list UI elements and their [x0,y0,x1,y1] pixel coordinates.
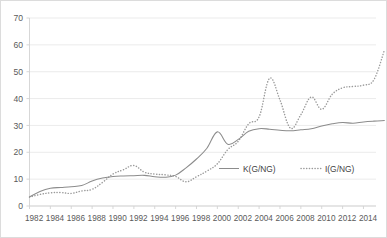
x-tick-label: 1996 [171,214,190,223]
x-tick-label: 2000 [213,214,232,223]
x-tick-label: 2002 [234,214,253,223]
x-tick-label: 2012 [338,214,357,223]
y-tick-label: 70 [13,13,23,23]
legend-label-i-g-ng[interactable]: I(G/NG) [325,164,355,174]
y-tick-label: 0 [18,201,23,211]
y-tick-label: 60 [13,40,23,50]
legend-label-k-g-ng[interactable]: K(G/NG) [243,164,276,174]
x-tick-label: 1994 [150,214,169,223]
x-tick-label: 1992 [129,214,148,223]
axis-lines [27,18,377,209]
x-tick-label: 2004 [255,214,274,223]
x-tick-label: 2008 [296,214,315,223]
x-tick-label: 2010 [317,214,336,223]
x-tick-label: 1990 [108,214,127,223]
y-tick-label: 10 [13,174,23,184]
y-tick-label: 40 [13,94,23,104]
x-tick-label: 2006 [275,214,294,223]
y-tick-label: 20 [13,147,23,157]
y-axis-tick-labels: 010203040506070 [13,13,23,211]
line-chart: 010203040506070 198219841986198819901992… [1,1,387,238]
x-tick-label: 1984 [46,214,65,223]
gridlines [30,18,377,206]
x-axis-tick-labels: 1982198419861988199019921994199619982000… [25,214,378,223]
y-tick-label: 30 [13,121,23,131]
x-tick-label: 1982 [25,214,44,223]
chart-container: 010203040506070 198219841986198819901992… [0,0,387,238]
y-tick-label: 50 [13,67,23,77]
x-tick-label: 1988 [88,214,107,223]
x-tick-label: 1998 [192,214,211,223]
data-series-layer [30,50,385,197]
chart-legend: K(G/NG)I(G/NG) [219,164,355,174]
series-line-k-g-ng [30,121,385,197]
x-tick-label: 1986 [67,214,86,223]
x-tick-label: 2014 [359,214,378,223]
